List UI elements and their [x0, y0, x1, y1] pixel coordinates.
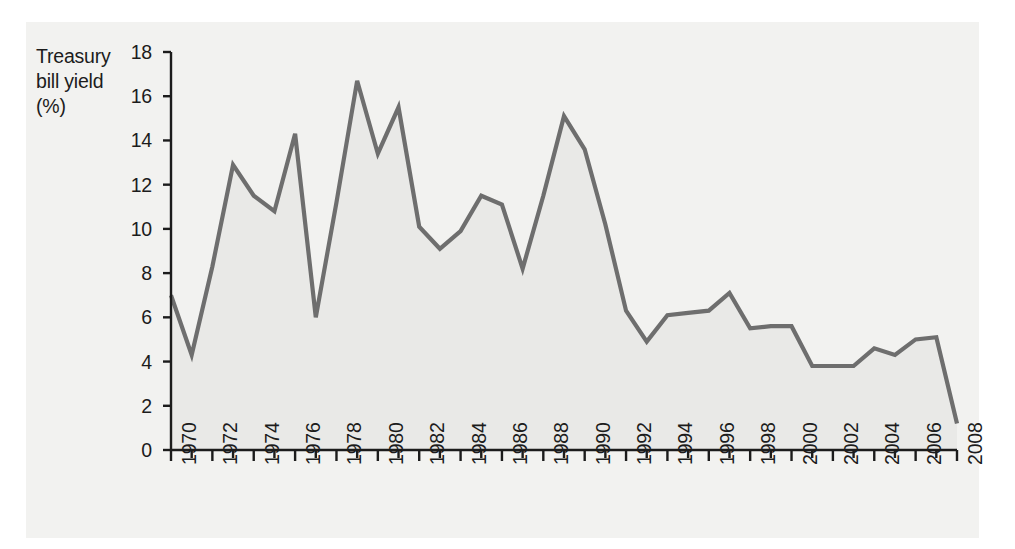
x-tick-label: 1976: [302, 422, 325, 465]
x-tick-label: 1988: [550, 422, 573, 465]
x-tick-label: 1992: [633, 422, 656, 465]
y-tick-label: 0: [112, 439, 152, 462]
y-tick-label: 6: [112, 306, 152, 329]
x-tick-label: 2008: [964, 422, 987, 465]
y-tick-label: 16: [112, 85, 152, 108]
y-axis-title: Treasury bill yield (%): [36, 44, 111, 119]
x-tick-label: 1974: [261, 422, 284, 465]
y-tick-label: 8: [112, 262, 152, 285]
chart-page: Treasury bill yield (%) 024681012141618 …: [0, 0, 1015, 549]
x-tick-label: 1984: [468, 422, 491, 465]
y-tick-label: 14: [112, 129, 152, 152]
x-tick-label: 1986: [509, 422, 532, 465]
x-tick-label: 2000: [799, 422, 822, 465]
x-tick-label: 1998: [757, 422, 780, 465]
y-tick-label: 2: [112, 394, 152, 417]
treasury-bill-yield-area-chart: [0, 0, 1015, 549]
x-tick-label: 2004: [881, 422, 904, 465]
x-tick-label: 1994: [674, 422, 697, 465]
y-tick-label: 10: [112, 217, 152, 240]
x-tick-label: 1970: [178, 422, 201, 465]
area-fill: [171, 81, 957, 450]
x-tick-label: 1996: [716, 422, 739, 465]
x-tick-label: 2006: [923, 422, 946, 465]
x-tick-label: 1982: [426, 422, 449, 465]
x-tick-label: 1978: [343, 422, 366, 465]
y-tick-label: 4: [112, 350, 152, 373]
x-tick-label: 1980: [385, 422, 408, 465]
x-tick-label: 2002: [840, 422, 863, 465]
y-tick-label: 12: [112, 173, 152, 196]
x-tick-label: 1990: [592, 422, 615, 465]
y-tick-label: 18: [112, 41, 152, 64]
x-tick-label: 1972: [219, 422, 242, 465]
